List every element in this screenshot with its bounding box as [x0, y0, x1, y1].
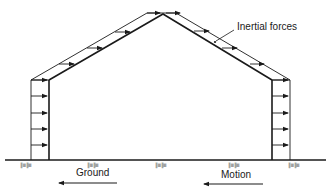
portal-frame-diagram: ∥≡∥≡ ∥≡∥≡ ∥≡∥≡ ∥≡∥≡ ∥≡∥≡ Inertial forces… [0, 0, 332, 194]
left-roof-force-arrows [59, 13, 160, 64]
force-envelope [31, 13, 290, 160]
ground-hatch: ∥≡∥≡ [20, 162, 31, 168]
leader-dot [214, 41, 216, 43]
ground-hatch: ∥≡∥≡ [228, 162, 239, 168]
ground-label: Ground [76, 168, 109, 178]
frame-structure [49, 14, 272, 160]
ground-hatch: ∥≡∥≡ [155, 162, 166, 168]
motion-label: Motion [221, 170, 251, 180]
inertial-forces-leader [216, 30, 234, 41]
ground-hatch: ∥≡∥≡ [288, 162, 299, 168]
right-wall-force-arrows [272, 80, 288, 145]
inertial-forces-label: Inertial forces [237, 22, 297, 32]
left-wall-force-arrows [31, 80, 47, 145]
